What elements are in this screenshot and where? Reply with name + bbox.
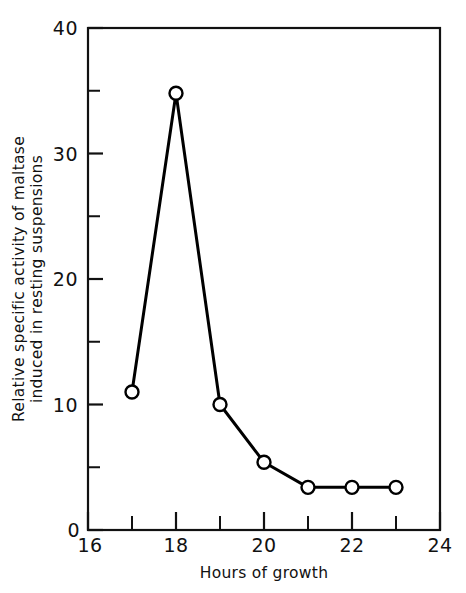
data-point xyxy=(346,481,359,494)
x-tick-label-20: 20 xyxy=(251,534,276,556)
line-chart: 40 30 20 10 0 16 18 20 22 24 Hours of gr… xyxy=(0,0,466,593)
data-point xyxy=(126,385,139,398)
data-point xyxy=(170,87,183,100)
x-axis-title: Hours of growth xyxy=(200,564,329,582)
y-tick-label-30: 30 xyxy=(53,143,78,165)
data-point xyxy=(302,481,315,494)
y-axis-title-line-2: induced in resting suspensions xyxy=(28,155,46,403)
y-axis-title-line-1: Relative specific activity of maltase xyxy=(10,136,28,422)
y-axis-major-ticks xyxy=(88,28,103,530)
x-tick-label-22: 22 xyxy=(339,534,364,556)
x-axis-major-ticks xyxy=(88,512,440,530)
y-tick-label-40: 40 xyxy=(53,17,78,39)
y-tick-label-10: 10 xyxy=(53,394,78,416)
data-point xyxy=(214,398,227,411)
data-point xyxy=(258,456,271,469)
y-tick-label-20: 20 xyxy=(53,268,78,290)
data-point xyxy=(390,481,403,494)
data-line-series-0 xyxy=(132,93,396,487)
x-tick-label-24: 24 xyxy=(427,534,452,556)
x-tick-label-16: 16 xyxy=(77,534,102,556)
x-tick-label-18: 18 xyxy=(163,534,188,556)
chart-figure: 40 30 20 10 0 16 18 20 22 24 Hours of gr… xyxy=(0,0,466,593)
